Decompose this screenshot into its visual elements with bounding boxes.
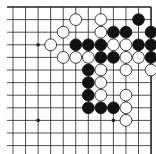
star-point-icon <box>36 43 40 47</box>
black-stone[interactable] <box>145 52 156 64</box>
black-stone[interactable] <box>145 39 156 51</box>
white-stone[interactable] <box>95 14 107 26</box>
black-stone[interactable] <box>82 64 94 76</box>
black-stone[interactable] <box>108 52 120 64</box>
white-stone[interactable] <box>57 52 69 64</box>
white-stone[interactable] <box>145 64 156 76</box>
black-stone[interactable] <box>82 89 94 101</box>
white-stone[interactable] <box>120 64 132 76</box>
black-stone[interactable] <box>82 102 94 114</box>
white-stone[interactable] <box>120 115 132 127</box>
white-stone[interactable] <box>95 64 107 76</box>
white-stone[interactable] <box>95 89 107 101</box>
white-stone[interactable] <box>95 26 107 38</box>
white-stone[interactable] <box>82 52 94 64</box>
black-stone[interactable] <box>70 39 82 51</box>
black-stone[interactable] <box>145 26 156 38</box>
white-stone[interactable] <box>95 77 107 89</box>
black-stone[interactable] <box>108 26 120 38</box>
black-stone[interactable] <box>82 39 94 51</box>
white-stone[interactable] <box>120 52 132 64</box>
white-stone[interactable] <box>120 39 132 51</box>
black-stone[interactable] <box>133 39 145 51</box>
black-stone[interactable] <box>133 14 145 26</box>
black-stone[interactable] <box>82 77 94 89</box>
white-stone[interactable] <box>70 14 82 26</box>
go-board[interactable] <box>0 0 156 154</box>
white-stone[interactable] <box>70 52 82 64</box>
white-stone[interactable] <box>45 39 57 51</box>
black-stone[interactable] <box>108 102 120 114</box>
black-stone[interactable] <box>95 102 107 114</box>
black-stone[interactable] <box>95 39 107 51</box>
white-stone[interactable] <box>133 52 145 64</box>
white-stone[interactable] <box>57 26 69 38</box>
black-stone[interactable] <box>120 26 132 38</box>
black-stone[interactable] <box>95 52 107 64</box>
star-point-icon <box>36 119 40 123</box>
white-stone[interactable] <box>108 39 120 51</box>
white-stone[interactable] <box>120 89 132 101</box>
white-stone[interactable] <box>120 102 132 114</box>
star-point-icon <box>112 119 116 123</box>
